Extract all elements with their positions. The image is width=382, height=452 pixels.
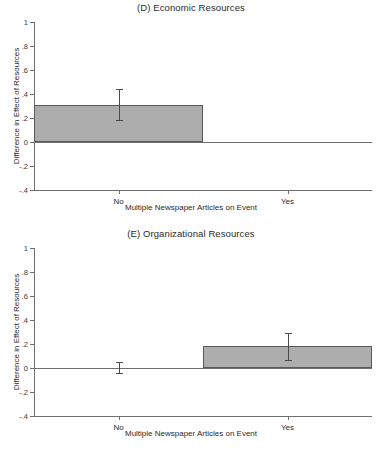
chart-panel-d: (D) Economic Resources NoYes 1.8.6.4.20-… (0, 0, 382, 226)
panel-e-error-bar-no (119, 362, 120, 373)
panel-e-y-tick-label: -.2 (19, 388, 28, 397)
panel-d-y-tick-label: 1 (24, 18, 28, 27)
panel-e-x-tick (288, 416, 289, 420)
panel-e-y-tick (30, 392, 34, 393)
panel-d-title: (D) Economic Resources (0, 2, 382, 13)
panel-e-error-cap-lower (116, 373, 123, 374)
panel-e-y-tick (30, 320, 34, 321)
panel-d-y-tick-label: -.2 (19, 162, 28, 171)
panel-e-x-tick (119, 416, 120, 420)
panel-e-y-tick (30, 344, 34, 345)
panel-d-error-cap-lower (116, 120, 123, 121)
panel-e-error-bar-yes (288, 333, 289, 359)
panel-e-y-tick-label: 1 (24, 244, 28, 253)
panel-d-y-tick-label: 0 (24, 138, 28, 147)
panel-e-error-cap-upper (285, 333, 292, 334)
panel-e-y-tick-label: .4 (22, 316, 28, 325)
panel-d-y-tick-label: .8 (22, 42, 28, 51)
panel-e-y-tick-label: .2 (22, 340, 28, 349)
panel-d-y-tick-label: -.4 (19, 186, 28, 195)
panel-e-y-tick (30, 248, 34, 249)
panel-e-title: (E) Organizational Resources (0, 228, 382, 239)
panel-d-error-cap-upper (116, 89, 123, 90)
figure-panels: (D) Economic Resources NoYes 1.8.6.4.20-… (0, 0, 382, 452)
panel-d-y-tick (30, 190, 34, 191)
panel-e-y-tick-label: .8 (22, 268, 28, 277)
panel-d-y-tick (30, 94, 34, 95)
panel-d-y-tick (30, 22, 34, 23)
panel-d-y-tick (30, 46, 34, 47)
panel-e-zero-line (34, 368, 372, 369)
panel-d-y-tick (30, 70, 34, 71)
panel-d-y-tick (30, 166, 34, 167)
panel-e-y-tick (30, 296, 34, 297)
chart-panel-e: (E) Organizational Resources NoYes 1.8.6… (0, 226, 382, 452)
panel-d-plot-area: NoYes (34, 22, 372, 190)
panel-d-zero-line (34, 142, 372, 143)
panel-d-y-tick-label: .6 (22, 66, 28, 75)
panel-d-x-tick (288, 190, 289, 194)
panel-d-x-axis-title: Multiple Newspaper Articles on Event (0, 203, 382, 212)
panel-e-x-axis-title: Multiple Newspaper Articles on Event (0, 429, 382, 438)
panel-e-y-axis (34, 248, 35, 416)
panel-e-y-tick-label: .6 (22, 292, 28, 301)
panel-e-error-cap-lower (285, 360, 292, 361)
panel-e-y-tick (30, 416, 34, 417)
panel-e-x-axis (34, 416, 372, 417)
panel-d-y-tick-label: .2 (22, 114, 28, 123)
panel-d-y-tick-label: .4 (22, 90, 28, 99)
panel-d-x-tick (119, 190, 120, 194)
panel-e-y-tick-label: -.4 (19, 412, 28, 421)
panel-e-plot-area: NoYes (34, 248, 372, 416)
panel-e-y-tick (30, 272, 34, 273)
panel-d-error-bar-no (119, 89, 120, 120)
panel-d-x-axis (34, 190, 372, 191)
panel-e-error-cap-upper (116, 362, 123, 363)
panel-e-y-tick-label: 0 (24, 364, 28, 373)
